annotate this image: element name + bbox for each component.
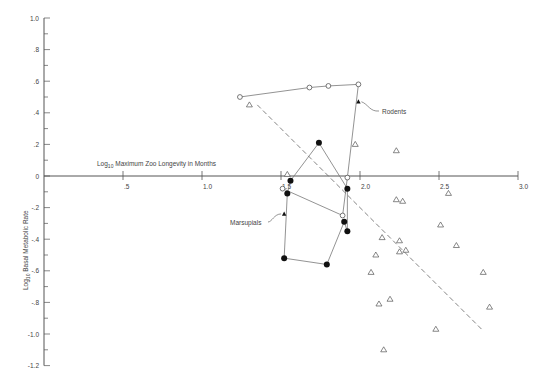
open-circle-point [345,175,350,180]
y-tick-label: -.6 [31,267,39,274]
x-tick-label: 2.0 [361,183,370,190]
filled-circle-point [287,178,293,184]
y-tick-label: -1.0 [28,331,40,338]
y-axis-title: Log10 Basal Metabolic Rate [22,210,31,290]
open-triangle-point [400,198,406,203]
open-circle-point [307,85,312,90]
open-triangle-point [373,252,379,257]
open-triangle-point [393,148,399,153]
data-series [238,82,493,352]
x-tick-label: 2.5 [440,183,449,190]
filled-circle-point [316,140,322,146]
y-tick-label: -.8 [31,299,39,306]
filled-circle-point [344,186,350,192]
x-tick-label: .5 [124,183,130,190]
x-tick-label: 1.0 [203,183,212,190]
open-triangle-point [445,190,451,195]
open-triangle-point [246,102,252,107]
open-triangle-point [381,347,387,352]
y-tick-label: .4 [34,109,40,116]
open-triangle-point [376,301,382,306]
y-tick-label: -.2 [31,204,39,211]
marsupials-leader-line [268,214,281,222]
open-triangle-point [368,269,374,274]
annotations [268,102,379,222]
y-tick-label: .8 [34,46,40,53]
open-triangle-point [433,326,439,331]
open-triangle-point [393,197,399,202]
filled-circle-point [344,228,350,234]
open-triangle-point [403,247,409,252]
scatter-chart: .51.01.52.02.53.01.0.8.6.4.20-.2-.4-.6-.… [0,0,543,380]
regression-line [257,105,481,329]
rodents-label: Rodents [382,108,407,115]
x-tick-label: 3.0 [519,183,528,190]
filled-triangle-point [282,211,286,215]
open-circle-point [280,186,285,191]
axes [44,18,518,366]
y-tick-label: -1.2 [28,362,40,369]
open-triangle-point [387,296,393,301]
y-tick-label: .6 [34,78,40,85]
filled-circle-point [284,190,290,196]
open-triangle-point [284,171,290,176]
open-circle-point [238,95,243,100]
y-tick-label: 1.0 [30,15,39,22]
open-circle-point [326,84,331,89]
polygon-outline [240,84,359,215]
open-triangle-point [438,222,444,227]
open-circle-point [340,213,345,218]
filled-circle-point [341,219,347,225]
open-triangle-point [453,243,459,248]
ticks: .51.01.52.02.53.01.0.8.6.4.20-.2-.4-.6-.… [28,15,529,370]
y-tick-label: 0 [35,173,39,180]
marsupials-label: Marsupials [230,219,262,227]
rodents-leader-line [361,102,379,111]
open-triangle-point [487,304,493,309]
open-triangle-point [379,235,385,240]
filled-circle-point [324,261,330,267]
x-axis-title: Log10 Maximum Zoo Longevity in Months [97,160,217,169]
filled-circle-point [281,255,287,261]
open-triangle-point [480,269,486,274]
open-triangle-point [352,141,358,146]
y-tick-label: .2 [34,141,40,148]
open-circle-point [356,82,361,87]
open-triangle-point [397,238,403,243]
y-tick-label: -.4 [31,236,39,243]
